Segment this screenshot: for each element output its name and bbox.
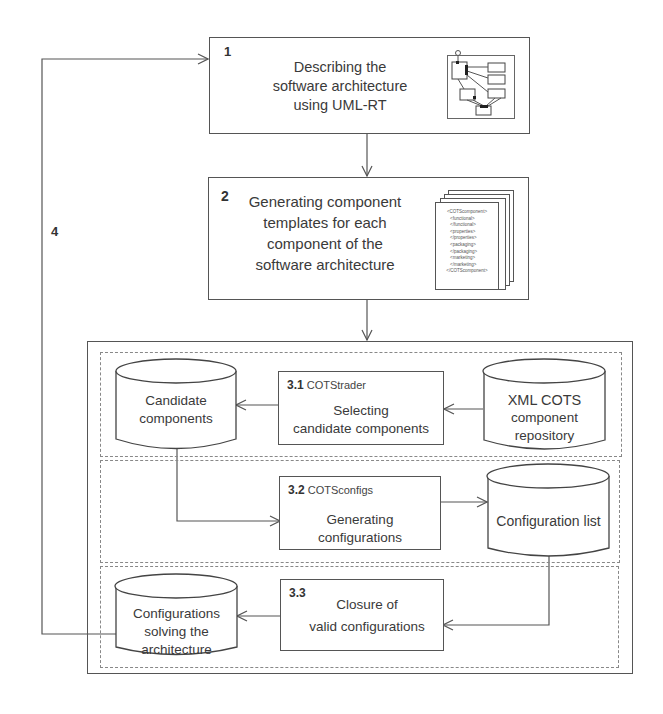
step-3-2-box: 3.2COTSconfigs Generating configurations — [279, 476, 441, 550]
configuration-list-cylinder — [487, 464, 609, 556]
step-3-1-header: 3.1COTStrader — [287, 378, 366, 392]
loop-step-4-label: 4 — [51, 224, 58, 239]
step-3-1-label: Selecting candidate components — [279, 402, 443, 438]
configuration-list-label: Configuration list — [488, 512, 609, 530]
configurations-solving-label: Configurations solving the architecture — [116, 605, 237, 659]
step-3-2-label: Generating configurations — [280, 511, 440, 547]
step-3-2-header: 3.2COTSconfigs — [288, 483, 373, 497]
step-3-1-box: 3.1COTStrader Selecting candidate compon… — [278, 371, 444, 445]
candidate-components-label: Candidate components — [116, 392, 236, 428]
step-3-3-box: 3.3 Closure of valid configurations — [280, 579, 444, 651]
xml-repository-label: XML COTS component repository — [484, 391, 605, 445]
step-3-3-label: Closure of valid configurations — [291, 594, 443, 638]
